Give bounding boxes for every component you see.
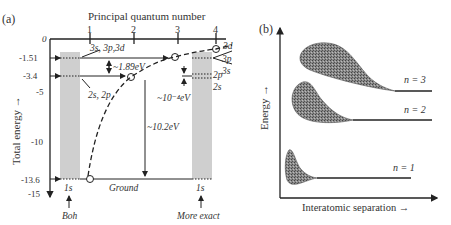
- panel-a: (a) Principal quantum number 1 2 3 4 0 -…: [2, 10, 233, 221]
- top-axis-title: Principal quantum number: [88, 10, 206, 22]
- pointer-2s2p: [82, 79, 90, 88]
- band-n1-label: n = 1: [393, 162, 415, 173]
- tick-label-4: 4: [213, 24, 218, 35]
- band-n2: [292, 82, 353, 123]
- y-tick-5: -5: [36, 87, 44, 97]
- label-1s-bohr: 1s: [64, 183, 73, 193]
- figure: (a) Principal quantum number 1 2 3 4 0 -…: [0, 0, 451, 225]
- b-x-axis-title: Interatomic separation →: [302, 202, 409, 213]
- y-tick-0: 0: [42, 34, 47, 44]
- panel-a-label: (a): [2, 12, 15, 26]
- panel-b-label: (b): [259, 22, 273, 36]
- label-3d: 3d: [222, 41, 233, 51]
- panel-b: (b) Energy → Interatomic separation → n …: [258, 22, 437, 213]
- label-2p: 2p: [213, 70, 223, 80]
- y-tick-10: -10: [31, 137, 43, 147]
- label-ground: Ground: [109, 183, 138, 193]
- state-circle-n1: [87, 176, 94, 183]
- y-tick-15: -15: [28, 189, 40, 199]
- tick-label-1: 1: [87, 24, 92, 35]
- tick-label-2: 2: [131, 24, 136, 35]
- y-tick-13-6: -13.6: [21, 175, 40, 185]
- y-tick-3-4: -3.4: [23, 71, 38, 81]
- label-3p: 3p: [221, 54, 232, 64]
- b-y-axis-title: Energy →: [258, 85, 270, 130]
- exact-band: [192, 52, 212, 179]
- label-n2-levels: 2s, 2p: [88, 90, 111, 100]
- label-gap-10-4: ~10⁻⁴eV: [157, 93, 191, 103]
- y-axis-title: Total energy →: [10, 96, 22, 165]
- label-n3-levels: 3s, 3p,3d: [89, 43, 125, 53]
- band-n1: [285, 150, 317, 185]
- y-tick-1-51: -1.51: [19, 53, 38, 63]
- tick-label-3: 3: [175, 24, 180, 35]
- label-2s: 2s: [213, 82, 222, 92]
- label-bohr: Boh: [62, 211, 78, 221]
- label-1s-exact: 1s: [196, 183, 205, 193]
- label-gap-1-89: ~1.89eV: [113, 62, 146, 72]
- bohr-band: [60, 52, 80, 179]
- band-n3-label: n = 3: [404, 74, 426, 85]
- band-n2-label: n = 2: [404, 104, 426, 115]
- label-more-exact: More exact: [176, 211, 220, 221]
- band-n3: [300, 43, 395, 91]
- label-gap-10-2: ~10.2eV: [147, 122, 180, 132]
